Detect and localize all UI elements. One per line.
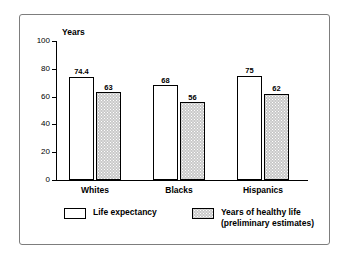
legend-swatch-life-expectancy: [64, 208, 86, 219]
chart-legend: Life expectancy Years of healthy life(pr…: [64, 207, 314, 229]
bar: 63: [96, 92, 121, 180]
y-axis-tick-label: 60: [41, 93, 50, 101]
y-axis-tick: [52, 152, 56, 153]
y-axis-tick-label: 80: [41, 65, 50, 73]
bar-value-label: 62: [272, 85, 280, 93]
y-axis-tick-label: 40: [41, 120, 50, 128]
y-axis-tick-label: 100: [37, 37, 50, 45]
y-axis-tick: [52, 97, 56, 98]
y-axis-title: Years: [62, 28, 85, 37]
plot-area: Years 020406080100 74.463Whites6856Black…: [56, 41, 308, 180]
legend-item-life-expectancy: Life expectancy: [64, 207, 192, 219]
bar-value-label: 56: [188, 94, 196, 102]
x-axis-line: [56, 180, 308, 181]
bar-value-label: 63: [104, 84, 112, 92]
bar-value-label: 68: [161, 77, 169, 85]
x-axis-category-label: Whites: [81, 186, 109, 195]
legend-label-healthy-life-line2: (preliminary estimates): [221, 218, 314, 229]
chart-frame: Years 020406080100 74.463Whites6856Black…: [19, 14, 330, 245]
bar: 74.4: [69, 77, 94, 180]
y-axis-tick: [52, 124, 56, 125]
y-axis-tick: [52, 180, 56, 181]
bar: 75: [237, 76, 262, 180]
legend-item-healthy-life: Years of healthy life(preliminary estima…: [192, 207, 314, 229]
bar-value-label: 75: [245, 67, 253, 75]
y-axis-tick-label: 0: [46, 176, 50, 184]
bar-value-label: 74.4: [74, 68, 89, 76]
bar: 62: [264, 94, 289, 180]
y-axis-tick-label: 20: [41, 148, 50, 156]
legend-label-life-expectancy: Life expectancy: [93, 207, 157, 218]
bar: 68: [153, 85, 178, 180]
legend-label-healthy-life: Years of healthy life(preliminary estima…: [221, 207, 314, 229]
bar: 56: [180, 102, 205, 180]
y-axis-tick: [52, 69, 56, 70]
y-axis-tick: [52, 41, 56, 42]
y-axis-line: [56, 41, 57, 180]
legend-swatch-healthy-life: [192, 208, 214, 219]
x-axis-category-label: Hispanics: [243, 186, 283, 195]
x-axis-category-label: Blacks: [165, 186, 192, 195]
legend-label-healthy-life-line1: Years of healthy life: [221, 207, 301, 217]
